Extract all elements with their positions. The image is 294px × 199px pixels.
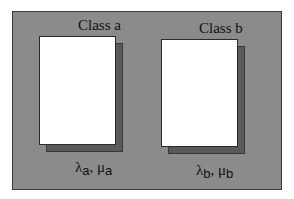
class-a-separator: , bbox=[90, 159, 98, 175]
class-a-mu: μ bbox=[97, 159, 105, 175]
class-a-mu-subscript: a bbox=[105, 163, 112, 178]
class-b-card bbox=[161, 39, 238, 147]
class-b-separator: , bbox=[211, 162, 219, 178]
class-b-mu-subscript: b bbox=[226, 166, 233, 181]
class-b-lambda-subscript: b bbox=[203, 166, 210, 181]
class-a-lambda-subscript: a bbox=[82, 163, 89, 178]
class-b-title: Class b bbox=[199, 21, 243, 36]
class-b-parameters: λb, μb bbox=[196, 163, 233, 178]
class-a-parameters: λa, μa bbox=[75, 160, 112, 175]
class-a-title: Class a bbox=[78, 18, 121, 33]
class-b-mu: μ bbox=[218, 162, 226, 178]
class-a-card bbox=[39, 36, 116, 145]
